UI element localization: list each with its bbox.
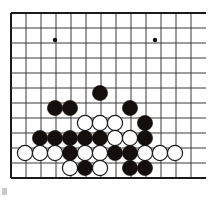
- black-stone[interactable]: [47, 100, 62, 115]
- white-stone[interactable]: [47, 145, 62, 160]
- black-stone[interactable]: [107, 145, 122, 160]
- white-stone[interactable]: [92, 160, 107, 175]
- white-stone[interactable]: [92, 145, 107, 160]
- white-stone[interactable]: [167, 145, 182, 160]
- black-stone[interactable]: [92, 130, 107, 145]
- white-stone[interactable]: [77, 115, 92, 130]
- star-point: [153, 38, 157, 42]
- black-stone[interactable]: [122, 145, 137, 160]
- white-stone[interactable]: [137, 145, 152, 160]
- white-stone[interactable]: [62, 160, 77, 175]
- white-stone[interactable]: [107, 115, 122, 130]
- black-stone[interactable]: [77, 160, 92, 175]
- black-stone[interactable]: [77, 130, 92, 145]
- star-point: [53, 38, 57, 42]
- black-stone[interactable]: [47, 130, 62, 145]
- white-stone[interactable]: [32, 145, 47, 160]
- black-stone[interactable]: [137, 130, 152, 145]
- black-stone[interactable]: [137, 160, 152, 175]
- white-stone[interactable]: [77, 145, 92, 160]
- black-stone[interactable]: [92, 85, 107, 100]
- black-stone[interactable]: [62, 130, 77, 145]
- white-stone[interactable]: [122, 130, 137, 145]
- black-stone[interactable]: [32, 130, 47, 145]
- black-stone[interactable]: [122, 160, 137, 175]
- white-stone[interactable]: [107, 130, 122, 145]
- go-board[interactable]: [0, 0, 209, 200]
- black-stone[interactable]: [62, 100, 77, 115]
- white-stone[interactable]: [92, 115, 107, 130]
- black-stone[interactable]: [62, 145, 77, 160]
- page-corner-mark: [2, 188, 7, 195]
- white-stone[interactable]: [152, 145, 167, 160]
- black-stone[interactable]: [137, 115, 152, 130]
- white-stone[interactable]: [17, 145, 32, 160]
- black-stone[interactable]: [122, 100, 137, 115]
